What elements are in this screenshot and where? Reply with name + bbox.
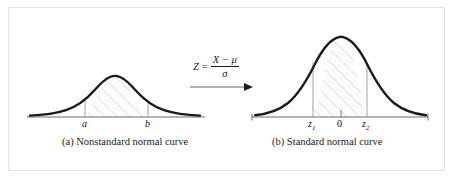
standardization-formula: Z = X − μ σ [193, 54, 239, 79]
panel-b-label-z2-sub: 2 [366, 124, 370, 132]
panel-b-label-z1-sub: 1 [312, 124, 316, 132]
panel-a-shaded-region [80, 60, 155, 120]
formula-fraction: X − μ σ [211, 54, 239, 79]
formula-variable: Z [193, 61, 199, 72]
panel-b-label-z1: z1 [308, 118, 315, 132]
formula-numerator: X − μ [211, 54, 239, 67]
panel-b-group [252, 30, 428, 122]
panel-a-label-b: b [145, 118, 150, 129]
panel-a-label-a: a [82, 118, 87, 129]
panel-b-label-z2: z2 [362, 118, 369, 132]
panel-a-caption: (a) Nonstandard normal curve [62, 136, 188, 147]
panel-b-caption: (b) Standard normal curve [272, 136, 383, 147]
formula-denominator: σ [222, 67, 227, 79]
panel-a-group [27, 60, 205, 120]
formula-equals: = [202, 61, 208, 72]
transform-arrow-group [190, 83, 253, 91]
figure-container: Z = X − μ σ a b z1 0 z2 (a) Nonstandard … [0, 0, 455, 179]
panel-b-label-zero: 0 [337, 118, 342, 129]
arrow-right-icon [244, 83, 253, 91]
panel-b-shaded-region [308, 30, 372, 122]
normal-curve-illustration [0, 0, 455, 179]
